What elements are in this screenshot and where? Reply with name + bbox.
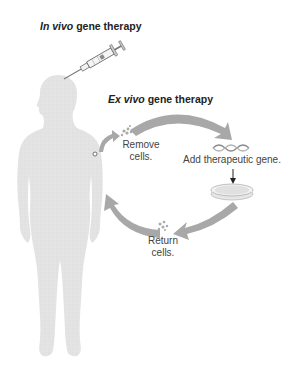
- step-add-line1: Add therapeutic gene.: [172, 154, 292, 166]
- syringe-icon: [61, 40, 126, 84]
- in-vivo-rest: gene therapy: [73, 20, 141, 32]
- petri-dish-icon: [211, 184, 253, 200]
- dna-helix-icon: [213, 145, 249, 151]
- in-vivo-title: In vivo gene therapy: [40, 20, 142, 32]
- step-remove-line2: cells.: [116, 151, 166, 163]
- human-silhouette: [17, 75, 103, 356]
- step-remove-line1: Remove: [116, 139, 166, 151]
- step-return-cells: Return cells.: [138, 235, 188, 259]
- ex-vivo-rest: gene therapy: [145, 93, 213, 105]
- step-return-line1: Return: [138, 235, 188, 247]
- step-remove-cells: Remove cells.: [116, 139, 166, 163]
- gene-therapy-diagram: In vivo gene therapy Ex vivo gene therap…: [0, 0, 299, 380]
- ex-vivo-italic: Ex vivo: [108, 93, 145, 105]
- step-return-line2: cells.: [138, 247, 188, 259]
- injection-site-marker: [93, 152, 97, 156]
- cycle-arrow-icon: [99, 114, 238, 240]
- down-arrow-icon: [230, 169, 236, 184]
- step-add-gene: Add therapeutic gene.: [172, 154, 292, 166]
- in-vivo-italic: In vivo: [40, 20, 73, 32]
- diagram-artwork: [0, 0, 299, 380]
- ex-vivo-title: Ex vivo gene therapy: [108, 93, 213, 105]
- cells-cluster-icon-return: [158, 221, 168, 231]
